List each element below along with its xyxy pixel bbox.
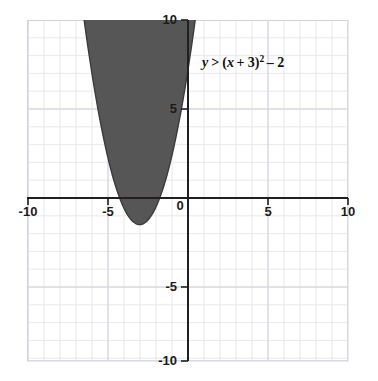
- x-tick-label-5: 5: [264, 204, 271, 219]
- y-tick-label-neg5: -5: [165, 279, 177, 294]
- x-tick-label-zero: 0: [176, 198, 183, 213]
- y-tick-label-5: 5: [170, 101, 177, 116]
- x-tick-label-10: 10: [341, 204, 355, 219]
- equation-x: x: [226, 55, 234, 70]
- equation-minus-two: – 2: [266, 55, 285, 70]
- coordinate-plane: -10 -5 0 5 10 10 5 -5 -10 y>(x+ 3)2– 2: [0, 0, 378, 381]
- y-tick-label-neg10: -10: [158, 353, 177, 368]
- x-tick-label-neg5: -5: [102, 204, 114, 219]
- equation-annotation: y>(x+ 3)2– 2: [200, 54, 284, 71]
- x-tick-label-neg10: -10: [19, 204, 38, 219]
- equation-y: y: [200, 55, 209, 70]
- graph-figure: -10 -5 0 5 10 10 5 -5 -10 y>(x+ 3)2– 2: [0, 0, 378, 381]
- equation-exponent: 2: [260, 54, 265, 64]
- y-tick-label-10: 10: [163, 12, 177, 27]
- equation-plus-three: + 3: [236, 55, 254, 70]
- equation-relation: >: [211, 55, 219, 70]
- equation-label: y>(x+ 3)2– 2: [200, 54, 284, 71]
